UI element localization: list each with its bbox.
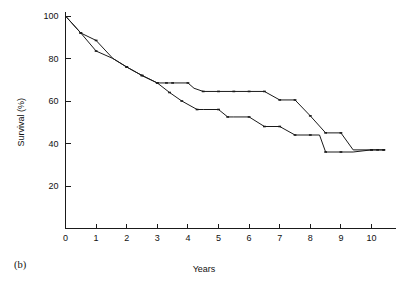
y-axis-title: Survival (%) bbox=[16, 98, 26, 147]
x-tick-label: 0 bbox=[63, 233, 68, 243]
y-tick-label: 40 bbox=[48, 139, 58, 149]
x-tick-label: 2 bbox=[124, 233, 129, 243]
x-tick-label: 5 bbox=[216, 233, 221, 243]
x-tick-label: 7 bbox=[277, 233, 282, 243]
panel-label: (b) bbox=[14, 259, 27, 271]
x-tick-label: 9 bbox=[338, 233, 343, 243]
x-tick-label: 8 bbox=[308, 233, 313, 243]
y-tick-label: 60 bbox=[48, 96, 58, 106]
curve-lower-curve bbox=[66, 16, 384, 152]
survival-curves bbox=[66, 16, 384, 152]
x-tick-label: 6 bbox=[247, 233, 252, 243]
axis-tick-labels: 20406080100012345678910 bbox=[43, 11, 376, 242]
curve-upper-curve bbox=[66, 16, 384, 150]
y-tick-label: 80 bbox=[48, 54, 58, 64]
x-axis-title: Years bbox=[193, 264, 216, 274]
x-tick-label: 1 bbox=[94, 233, 99, 243]
x-tick-label: 4 bbox=[185, 233, 190, 243]
y-tick-label: 20 bbox=[48, 181, 58, 191]
survival-chart: 20406080100012345678910 Survival (%) Yea… bbox=[0, 0, 415, 286]
axes bbox=[66, 12, 397, 229]
axis-ticks bbox=[66, 16, 372, 229]
figure-panel: 20406080100012345678910 Survival (%) Yea… bbox=[0, 0, 415, 286]
censoring-marks bbox=[79, 33, 385, 152]
x-tick-label: 3 bbox=[155, 233, 160, 243]
x-tick-label: 10 bbox=[367, 233, 377, 243]
y-tick-label: 100 bbox=[43, 11, 58, 21]
